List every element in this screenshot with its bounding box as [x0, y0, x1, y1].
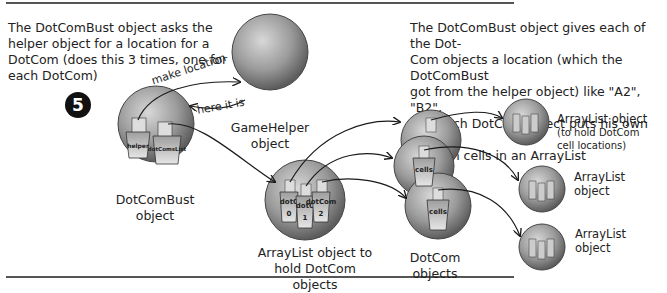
caption-line: objects — [400, 266, 470, 282]
caption-line: ArrayList object — [557, 113, 647, 126]
caption-line: ArrayList object to — [250, 245, 380, 261]
caption-line: cell locations) — [557, 139, 647, 152]
caption-arraylist-cells-0: ArrayList object (to hold DotCom cell lo… — [557, 113, 647, 152]
caption-line: ArrayList — [574, 170, 625, 184]
caption-line: DotComBust — [110, 192, 200, 208]
svg-text:dotComsList: dotComsList — [148, 146, 187, 152]
caption-line: object — [574, 184, 625, 198]
caption-gamehelper: GameHelper object — [225, 120, 315, 152]
svg-text:1: 1 — [303, 214, 308, 222]
caption-line: object — [575, 241, 626, 255]
svg-text:2: 2 — [319, 210, 324, 218]
svg-text:helper: helper — [127, 142, 149, 150]
arraylist-cells-sphere-2 — [519, 224, 565, 270]
gamehelper-sphere — [232, 14, 308, 90]
caption-line: (to hold DotCom — [557, 126, 647, 139]
arraylist-cells-sphere-0 — [503, 99, 549, 145]
svg-text:cells: cells — [415, 166, 433, 174]
arraylist-cells-sphere-1 — [519, 166, 565, 212]
caption-line: DotCom — [400, 250, 470, 266]
caption-line: ArrayList — [575, 227, 626, 241]
caption-arraylist-cells-2: ArrayList object — [575, 227, 626, 255]
caption-arraylist-dotcoms: ArrayList object to hold DotCom objects — [250, 245, 380, 293]
svg-text:cells: cells — [429, 208, 447, 216]
svg-text:dotCom: dotCom — [306, 198, 336, 206]
caption-line: object — [225, 136, 315, 152]
caption-dotcombust: DotComBust object — [110, 192, 200, 224]
svg-text:0: 0 — [287, 210, 292, 218]
caption-arraylist-cells-1: ArrayList object — [574, 170, 625, 198]
caption-dotcoms: DotCom objects — [400, 250, 470, 282]
caption-line: object — [110, 208, 200, 224]
caption-line: hold DotCom objects — [250, 261, 380, 293]
caption-line: GameHelper — [225, 120, 315, 136]
